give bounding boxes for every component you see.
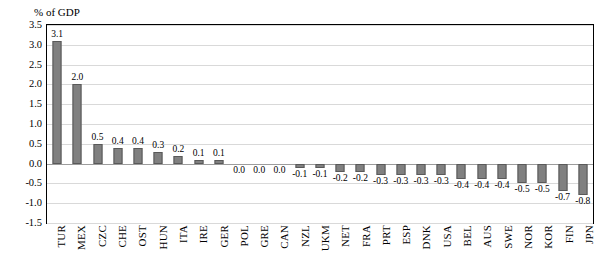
- bar-slot: -0.5: [512, 25, 532, 223]
- x-label-slot: GER: [208, 225, 228, 267]
- bar-value-label: 0.0: [233, 165, 245, 175]
- x-label-slot: JPN: [574, 225, 594, 267]
- x-label-slot: POL: [229, 225, 249, 267]
- bar-slot: 0.4: [128, 25, 148, 223]
- bar: [457, 164, 466, 180]
- x-label-slot: FRA: [350, 225, 370, 267]
- x-label-slot: AUS: [472, 225, 492, 267]
- bar: [53, 41, 62, 164]
- bar-slot: -0.3: [391, 25, 411, 223]
- bar-value-label: -0.2: [333, 173, 348, 183]
- bar-value-label: -0.3: [393, 176, 408, 186]
- y-tick-label: 0.5: [12, 139, 42, 149]
- y-tick-label: 1.0: [12, 119, 42, 129]
- y-tick-label: 3.5: [12, 20, 42, 30]
- bar: [194, 160, 203, 164]
- bar: [356, 164, 365, 172]
- bar-slot: 0.2: [168, 25, 188, 223]
- bar: [477, 164, 486, 180]
- bar-slot: -0.4: [472, 25, 492, 223]
- bar: [437, 164, 446, 176]
- bar-slot: 0.0: [229, 25, 249, 223]
- bar-slot: -0.7: [552, 25, 572, 223]
- bar-value-label: 0.3: [152, 140, 164, 150]
- x-label-slot: GRE: [249, 225, 269, 267]
- bar-value-label: 0.5: [92, 132, 104, 142]
- bar: [376, 164, 385, 176]
- bar: [315, 164, 324, 168]
- bar-slot: 0.0: [249, 25, 269, 223]
- bar-value-label: 2.0: [71, 72, 83, 82]
- x-label-slot: KOR: [533, 225, 553, 267]
- bar: [497, 164, 506, 180]
- bar-slot: -0.4: [451, 25, 471, 223]
- bar-slot: -0.2: [350, 25, 370, 223]
- y-tick-label: -0.5: [12, 178, 42, 188]
- x-label-slot: FIN: [553, 225, 573, 267]
- x-label-slot: SWE: [493, 225, 513, 267]
- bar-slot: 0.0: [269, 25, 289, 223]
- bar: [336, 164, 345, 172]
- bar-slot: 0.4: [108, 25, 128, 223]
- x-label-slot: HUN: [147, 225, 167, 267]
- x-label-slot: MEX: [66, 225, 86, 267]
- x-label-slot: OST: [127, 225, 147, 267]
- bar: [73, 84, 82, 163]
- bar-value-label: 0.1: [193, 148, 205, 158]
- x-label-slot: CZC: [87, 225, 107, 267]
- x-label-slot: PRT: [371, 225, 391, 267]
- x-label-slot: NET: [330, 225, 350, 267]
- y-tick-label: 2.5: [12, 60, 42, 70]
- y-axis-title: % of GDP: [34, 6, 80, 18]
- bar-value-label: -0.3: [373, 176, 388, 186]
- bar-value-label: -0.5: [535, 184, 550, 194]
- bar-value-label: -0.1: [312, 169, 327, 179]
- bar-value-label: -0.8: [575, 196, 590, 206]
- bar: [93, 144, 102, 164]
- y-tick-label: -1.0: [12, 198, 42, 208]
- bar: [214, 160, 223, 164]
- y-tick-label: 1.5: [12, 99, 42, 109]
- bar-value-label: -0.3: [414, 176, 429, 186]
- bar: [578, 164, 587, 196]
- x-label-slot: CAN: [269, 225, 289, 267]
- bar-value-label: 0.4: [132, 136, 144, 146]
- x-label-slot: BEL: [452, 225, 472, 267]
- bar-value-label: -0.5: [515, 184, 530, 194]
- bar-slot: -0.3: [371, 25, 391, 223]
- bar-value-label: -0.7: [555, 192, 570, 202]
- bar-value-label: 0.0: [253, 165, 265, 175]
- bar: [417, 164, 426, 176]
- x-label-slot: ITA: [168, 225, 188, 267]
- bar-slot: 3.1: [47, 25, 67, 223]
- bar: [174, 156, 183, 164]
- bar-value-label: -0.2: [353, 173, 368, 183]
- x-label-slot: DNK: [411, 225, 431, 267]
- x-label-slot: NZL: [290, 225, 310, 267]
- y-tick-label: 0.0: [12, 159, 42, 169]
- bar: [113, 148, 122, 164]
- x-axis-tick-labels: TURMEXCZCCHEOSTHUNITAIREGERPOLGRECANNZLU…: [46, 225, 594, 267]
- bar-slot: 0.1: [209, 25, 229, 223]
- bar-value-label: 3.1: [51, 29, 63, 39]
- bar-slot: -0.3: [411, 25, 431, 223]
- bar: [396, 164, 405, 176]
- bar: [558, 164, 567, 192]
- bar-series: 3.12.00.50.40.40.30.20.10.10.00.00.0-0.1…: [47, 25, 593, 223]
- x-label-slot: NOR: [513, 225, 533, 267]
- y-tick-label: 2.0: [12, 79, 42, 89]
- bar-value-label: -0.1: [292, 169, 307, 179]
- bar-slot: -0.2: [330, 25, 350, 223]
- bar-slot: -0.3: [431, 25, 451, 223]
- bar-value-label: -0.3: [434, 176, 449, 186]
- bar-value-label: 0.0: [274, 165, 286, 175]
- bar: [538, 164, 547, 184]
- plot-area: 3.12.00.50.40.40.30.20.10.10.00.00.0-0.1…: [46, 24, 594, 224]
- x-label-slot: CHE: [107, 225, 127, 267]
- y-tick-label: 3.0: [12, 40, 42, 50]
- y-tick-label: -1.5: [12, 218, 42, 228]
- bar-slot: -0.1: [290, 25, 310, 223]
- bar-value-label: -0.4: [454, 180, 469, 190]
- x-label-slot: TUR: [46, 225, 66, 267]
- bar: [518, 164, 527, 184]
